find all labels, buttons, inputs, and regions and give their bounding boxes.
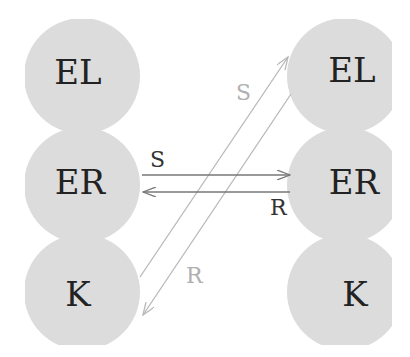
arrow-s-horizontal-label: S: [150, 147, 165, 172]
arrow-r-diagonal-label: R: [186, 263, 204, 288]
right-node-er-label: ER: [329, 162, 381, 202]
diagram-canvas: EL ER K EL ER K S R S R: [0, 0, 410, 357]
arrow-r-horizontal-label: R: [270, 195, 288, 220]
arrow-r-diagonal: [143, 94, 291, 315]
right-node-k-label: K: [342, 274, 368, 314]
left-node-k-label: K: [65, 274, 91, 314]
left-node-er-label: ER: [55, 162, 107, 202]
arrow-s-diagonal-label: S: [236, 80, 251, 105]
left-node-el-label: EL: [54, 52, 101, 92]
right-node-el-label: EL: [328, 50, 375, 90]
